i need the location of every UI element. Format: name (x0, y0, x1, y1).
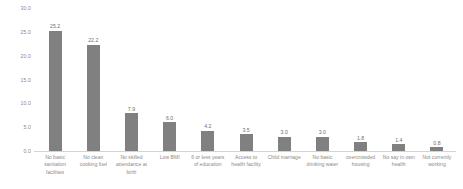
bar-group: 0.8 (418, 8, 456, 151)
bar (87, 45, 100, 151)
x-category-label: Low BMI (151, 154, 189, 188)
bar-value-label: 22.2 (88, 38, 98, 43)
bar (125, 113, 138, 151)
y-tick-label: 25.0 (21, 29, 32, 35)
bar-value-label: 3.0 (319, 130, 326, 135)
x-category-label: Not currently working (418, 154, 456, 188)
x-axis: No basic sanitation facilities No clean … (36, 154, 456, 188)
x-category-label: No basic drinking water (303, 154, 341, 188)
bar-group: 3.0 (265, 8, 303, 151)
bar-group: 22.2 (74, 8, 112, 151)
bar-value-label: 0.8 (433, 141, 440, 146)
y-axis: 0.0 5.0 10.0 15.0 20.0 25.0 30.0 (0, 8, 34, 151)
bar-value-label: 7.9 (128, 107, 135, 112)
bar-group: 3.5 (227, 8, 265, 151)
bar-chart: 0.0 5.0 10.0 15.0 20.0 25.0 30.0 25.2 22… (0, 0, 463, 189)
x-category-label: overcrowded housing (342, 154, 380, 188)
bar-group: 1.8 (342, 8, 380, 151)
bar-value-label: 25.2 (50, 24, 60, 29)
x-category-label: No skilled attendance at birth (112, 154, 150, 188)
y-tick-label: 30.0 (21, 5, 32, 11)
bar-value-label: 3.5 (242, 128, 249, 133)
bar-value-label: 6.0 (166, 116, 173, 121)
bar-series: 25.2 22.2 7.9 6.0 4.2 3.5 3.0 3.0 (36, 8, 456, 151)
bar-group: 6.0 (151, 8, 189, 151)
x-category-label: No basic sanitation facilities (36, 154, 74, 188)
bar-group: 1.4 (380, 8, 418, 151)
y-tick-label: 0.0 (23, 148, 31, 154)
bar (430, 147, 443, 151)
bar-value-label: 1.8 (357, 136, 364, 141)
x-category-label: No clean cooking fuel (74, 154, 112, 188)
y-tick-label: 15.0 (21, 77, 32, 83)
bar-group: 25.2 (36, 8, 74, 151)
bar-value-label: 4.2 (204, 124, 211, 129)
y-tick-label: 5.0 (23, 124, 31, 130)
bar (278, 137, 291, 151)
bar (49, 31, 62, 151)
y-tick-label: 20.0 (21, 53, 32, 59)
y-tick-label: 10.0 (21, 100, 32, 106)
bar (163, 122, 176, 151)
bar-value-label: 3.0 (281, 130, 288, 135)
x-category-label: Access to health facility (227, 154, 265, 188)
bar-group: 4.2 (189, 8, 227, 151)
bar (201, 131, 214, 151)
x-axis-line (34, 151, 456, 152)
x-category-label: Child marriage (265, 154, 303, 188)
x-category-label: No say in own health (380, 154, 418, 188)
bar (392, 144, 405, 151)
bar-value-label: 1.4 (395, 138, 402, 143)
x-category-label: 6 or less years of education (189, 154, 227, 188)
bar (240, 134, 253, 151)
bar-group: 7.9 (112, 8, 150, 151)
bar (316, 137, 329, 151)
bar (354, 142, 367, 151)
bar-group: 3.0 (303, 8, 341, 151)
